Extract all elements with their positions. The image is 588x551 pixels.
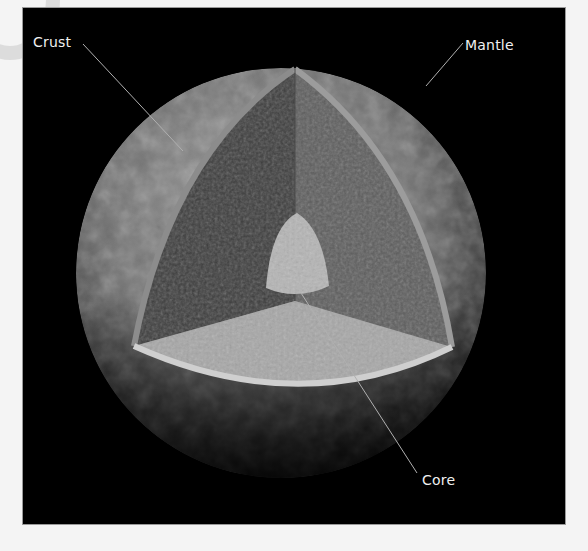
label-core: Core [422,472,455,488]
planet-cutaway-illustration [23,8,566,525]
mantle-leader-line [426,43,463,86]
label-crust: Crust [33,34,71,50]
label-mantle: Mantle [465,37,514,53]
diagram-panel: Crust Mantle Core [22,7,566,525]
